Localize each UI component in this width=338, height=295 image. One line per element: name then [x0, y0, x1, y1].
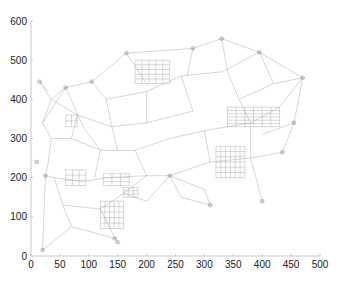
- network-edge: [294, 78, 303, 123]
- network-edge: [170, 176, 205, 190]
- network-edge: [63, 205, 101, 209]
- x-tick-label: 300: [196, 259, 213, 270]
- network-edge: [239, 84, 274, 100]
- x-tick-label: 250: [167, 259, 184, 270]
- street-grid: [228, 107, 280, 127]
- network-edge: [48, 139, 51, 163]
- network-edge: [228, 72, 240, 99]
- x-tick-label: 150: [109, 259, 126, 270]
- street-grid: [100, 201, 123, 228]
- x-tick-label: 450: [283, 259, 300, 270]
- network-edge: [66, 82, 92, 88]
- network-edge: [92, 82, 106, 100]
- network-edge: [43, 176, 46, 250]
- y-tick-label: 0: [21, 251, 27, 262]
- network-edge: [100, 209, 114, 238]
- network-edge: [43, 99, 52, 123]
- x-tick-label: 0: [28, 259, 34, 270]
- network-edge: [112, 127, 118, 151]
- network-edge: [106, 99, 112, 126]
- x-tick-label: 400: [254, 259, 271, 270]
- x-tick-label: 100: [80, 259, 97, 270]
- network-edge: [193, 39, 222, 49]
- axes: [31, 21, 320, 256]
- network-edge: [262, 123, 294, 135]
- network-edge: [51, 88, 65, 100]
- network-edge: [126, 48, 192, 53]
- network-edge: [83, 178, 106, 182]
- network-edge: [204, 131, 210, 162]
- network-edge: [282, 123, 294, 152]
- network-edge: [54, 178, 83, 182]
- network-edge: [43, 227, 72, 251]
- network-edge: [95, 150, 101, 177]
- network-edge: [147, 111, 193, 123]
- network-edge: [170, 162, 210, 176]
- street-grid: [66, 115, 78, 127]
- network-edge: [170, 131, 205, 139]
- network-edge: [45, 162, 48, 176]
- network-edge: [259, 52, 273, 83]
- street-grid: [103, 174, 129, 186]
- network-edge: [54, 178, 63, 205]
- network-edge: [251, 107, 280, 123]
- network-edge: [274, 78, 303, 84]
- y-tick-label: 500: [10, 55, 27, 66]
- x-tick-label: 500: [312, 259, 329, 270]
- x-tick-label: 350: [225, 259, 242, 270]
- network-edge: [43, 123, 52, 139]
- network-edge: [43, 88, 66, 123]
- network-edge: [251, 158, 263, 201]
- network-edge: [170, 176, 182, 198]
- network-layer: [35, 37, 304, 252]
- network-edge: [187, 48, 193, 75]
- y-tick-label: 600: [10, 16, 27, 27]
- y-tick-label: 100: [10, 211, 27, 222]
- network-edge: [222, 39, 228, 72]
- network-edge: [181, 76, 193, 111]
- street-grid: [66, 170, 86, 186]
- network-edge: [259, 52, 302, 77]
- network-edge: [40, 82, 52, 100]
- x-tick-label: 200: [138, 259, 155, 270]
- network-edge: [106, 176, 146, 178]
- network-edge: [181, 197, 210, 205]
- network-edge: [92, 53, 127, 82]
- y-tick-label: 200: [10, 172, 27, 183]
- network-edge: [112, 123, 147, 127]
- y-tick-labels: 0100200300400500600: [10, 16, 33, 262]
- y-tick-label: 400: [10, 94, 27, 105]
- network-edge: [222, 52, 260, 72]
- network-edge: [135, 150, 147, 175]
- network-edge: [222, 39, 260, 53]
- street-grid: [135, 60, 170, 83]
- network-edge: [106, 92, 146, 100]
- y-tick-label: 300: [10, 133, 27, 144]
- network-plot: 0100200300400500600 05010015020025030035…: [0, 0, 338, 295]
- network-edge: [280, 78, 303, 107]
- network-edge: [147, 176, 170, 201]
- network-edge: [204, 189, 210, 205]
- network-edge: [251, 152, 283, 158]
- x-tick-label: 50: [54, 259, 66, 270]
- network-edge: [135, 139, 170, 151]
- network-edge: [63, 205, 72, 227]
- network-edge: [51, 99, 77, 115]
- street-grid: [216, 146, 245, 177]
